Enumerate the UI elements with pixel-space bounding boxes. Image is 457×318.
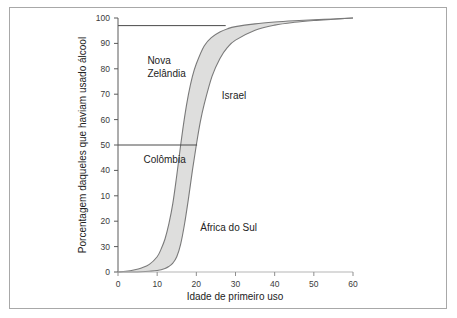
y-tick-label: 100 <box>96 13 110 23</box>
x-axis-ticks: 0102030405060 <box>116 272 358 289</box>
y-tick-label: 90 <box>101 38 111 48</box>
y-tick-label: 60 <box>101 115 111 125</box>
x-tick-label: 50 <box>309 279 319 289</box>
x-axis-title: Idade de primeiro uso <box>187 291 284 302</box>
y-axis-ticks: 1009080706050401020300 <box>96 13 118 277</box>
y-tick-label: 40 <box>101 165 111 175</box>
annotation-nova-zelandia-line1: Nova <box>147 55 171 66</box>
x-tick-label: 30 <box>231 279 241 289</box>
y-tick-label: 50 <box>101 140 111 150</box>
y-tick-label: 80 <box>101 64 111 74</box>
annotation-nova-zelandia-line2: Zelândia <box>147 68 186 79</box>
x-tick-label: 60 <box>348 279 358 289</box>
y-tick-label: 10 <box>101 191 111 201</box>
annotation-africa-do-sul: África do Sul <box>200 221 257 233</box>
x-tick-label: 40 <box>270 279 280 289</box>
annotation-israel: Israel <box>222 90 246 101</box>
y-tick-label: 20 <box>101 216 111 226</box>
annotation-colombia: Colômbia <box>143 154 186 165</box>
figure-container: 1009080706050401020300 0102030405060 Ida… <box>0 0 457 318</box>
y-tick-label: 70 <box>101 89 111 99</box>
y-tick-label: 0 <box>105 267 110 277</box>
alcohol-onset-chart: 1009080706050401020300 0102030405060 Ida… <box>0 0 457 318</box>
x-tick-label: 20 <box>192 279 202 289</box>
x-tick-label: 10 <box>152 279 162 289</box>
y-axis-title: Porcentagem daqueles que haviam usado ál… <box>77 37 88 253</box>
y-tick-label: 30 <box>101 242 111 252</box>
x-tick-label: 0 <box>116 279 121 289</box>
